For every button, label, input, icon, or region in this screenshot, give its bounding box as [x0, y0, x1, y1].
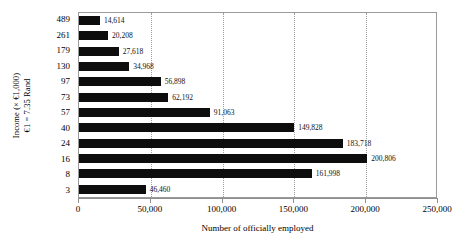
bar: [79, 139, 343, 148]
bar-row: 91,063: [79, 105, 436, 120]
x-axis-tick-label: 100,000: [207, 205, 236, 214]
y-axis-tick-label: 73: [40, 90, 74, 106]
bar-value-label: 56,898: [165, 78, 186, 86]
y-axis-tick-labels: 48926117913097735740241683: [40, 12, 74, 198]
bar-chart: Income (× €1,000) €1 = 7.35 Rand 4892611…: [0, 0, 471, 249]
bar-value-label: 183,718: [347, 140, 371, 148]
y-axis-title: Income (× €1,000) €1 = 7.35 Rand: [0, 0, 44, 210]
bars-layer: 14,61420,20827,61834,96856,89862,19291,0…: [79, 13, 436, 197]
bar-value-label: 200,806: [371, 155, 395, 163]
y-axis-tick-label: 489: [40, 12, 74, 28]
y-axis-title-line2: €1 = 7.35 Rand: [22, 72, 33, 137]
bar: [79, 169, 312, 178]
bar-row: 200,806: [79, 151, 436, 166]
x-axis-tickmark: [150, 198, 151, 203]
bar: [79, 31, 108, 40]
x-axis-tickmark: [437, 198, 438, 203]
plot-area: 14,61420,20827,61834,96856,89862,19291,0…: [78, 12, 437, 198]
bar: [79, 93, 168, 102]
bar-row: 161,998: [79, 166, 436, 181]
y-axis-tick-label: 130: [40, 59, 74, 75]
bar-value-label: 62,192: [172, 94, 193, 102]
y-axis-tick-label: 179: [40, 43, 74, 59]
bar-value-label: 46,460: [150, 186, 171, 194]
x-axis-tickmark: [222, 198, 223, 203]
x-axis-tick-label: 0: [76, 205, 81, 214]
bar-row: 14,614: [79, 13, 436, 28]
bar: [79, 62, 129, 71]
bar-value-label: 34,968: [133, 63, 154, 71]
bar: [79, 185, 146, 194]
y-axis-title-line1: Income (× €1,000): [12, 72, 22, 137]
x-axis-tick-label: 150,000: [279, 205, 308, 214]
bar-value-label: 161,998: [316, 170, 340, 178]
y-axis-tick-label: 3: [40, 183, 74, 199]
x-axis-tickmark: [365, 198, 366, 203]
y-axis-tick-label: 24: [40, 136, 74, 152]
x-axis-tickmarks: [78, 198, 437, 203]
bar-value-label: 27,618: [123, 48, 144, 56]
bar-row: 20,208: [79, 28, 436, 43]
bar: [79, 123, 294, 132]
x-axis-tick-label: 250,000: [422, 205, 451, 214]
bar-value-label: 20,208: [112, 32, 133, 40]
bar: [79, 16, 100, 25]
y-axis-tick-label: 57: [40, 105, 74, 121]
bar-row: 46,460: [79, 182, 436, 197]
bar-value-label: 91,063: [214, 109, 235, 117]
bar-row: 27,618: [79, 44, 436, 59]
bar-row: 34,968: [79, 59, 436, 74]
bar-row: 56,898: [79, 74, 436, 89]
bar-value-label: 14,614: [104, 17, 125, 25]
bar-row: 62,192: [79, 90, 436, 105]
bar: [79, 77, 161, 86]
bar: [79, 47, 119, 56]
y-axis-tick-label: 8: [40, 167, 74, 183]
x-axis-tickmark: [78, 198, 79, 203]
x-axis-tick-label: 50,000: [137, 205, 162, 214]
y-axis-tick-label: 97: [40, 74, 74, 90]
x-axis-tick-label: 200,000: [351, 205, 380, 214]
y-axis-tick-label: 261: [40, 28, 74, 44]
bar: [79, 108, 210, 117]
y-axis-tick-label: 16: [40, 152, 74, 168]
bar-row: 149,828: [79, 120, 436, 135]
bar-row: 183,718: [79, 136, 436, 151]
y-axis-tick-label: 40: [40, 121, 74, 137]
x-axis-tickmark: [293, 198, 294, 203]
bar: [79, 154, 367, 163]
x-axis-title: Number of officially employed: [78, 224, 437, 233]
bar-value-label: 149,828: [298, 124, 322, 132]
x-axis-tick-labels: 050,000100,000150,000200,000250,000: [78, 205, 437, 219]
